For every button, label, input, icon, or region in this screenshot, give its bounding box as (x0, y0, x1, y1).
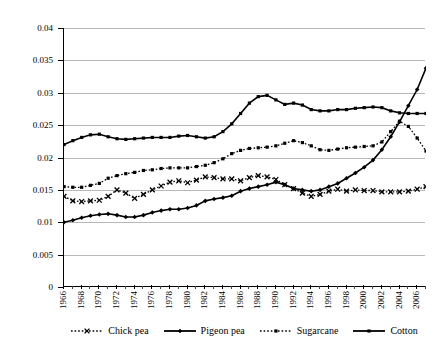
data-point (301, 141, 304, 144)
data-point (64, 185, 66, 188)
series-line (64, 121, 426, 187)
x-tick-label: 2004 (395, 291, 404, 309)
data-point (97, 212, 102, 217)
data-point (265, 94, 268, 97)
data-point (318, 109, 321, 112)
data-point (230, 122, 233, 125)
legend-marker-icon (70, 326, 104, 336)
data-point (398, 120, 401, 123)
data-point (354, 146, 357, 149)
data-point (327, 109, 330, 112)
legend-item-cotton[interactable]: Cotton (352, 326, 417, 336)
legend-item-pigeon-pea[interactable]: Pigeon pea (163, 326, 245, 336)
data-point (248, 147, 251, 150)
data-point (141, 213, 146, 218)
data-point (398, 111, 401, 114)
x-tick-mark (301, 286, 302, 289)
x-tick-mark (328, 285, 329, 289)
x-tick-mark (381, 285, 382, 289)
x-tick-mark (169, 285, 170, 289)
x-tick-label: 1968 (77, 291, 86, 309)
data-point (80, 136, 83, 139)
data-point (107, 135, 110, 138)
x-tick-label: 1996 (324, 291, 333, 309)
data-point (221, 157, 224, 160)
x-tick-label: 1998 (342, 291, 351, 309)
x-tick-mark (425, 286, 426, 289)
data-point (265, 146, 268, 149)
x-tick-mark (134, 285, 135, 289)
y-tick-label: 0.04 (37, 24, 53, 33)
legend-label: Cotton (390, 326, 417, 336)
legend-marker-icon (352, 326, 386, 336)
data-point (283, 103, 286, 106)
series-cotton (64, 94, 426, 146)
data-point (115, 187, 120, 192)
data-point (160, 167, 163, 170)
data-point (186, 166, 189, 169)
data-point (389, 109, 392, 112)
data-point (318, 188, 323, 193)
x-tick-label: 1976 (147, 291, 156, 309)
y-tick-label: 0.025 (33, 121, 53, 130)
x-tick-mark (178, 286, 179, 289)
legend-item-sugarcane[interactable]: Sugarcane (259, 326, 339, 336)
data-point (124, 172, 127, 175)
y-tick-label: 0 (49, 283, 54, 292)
data-point (301, 103, 304, 106)
data-point (151, 136, 154, 139)
data-point (150, 210, 155, 215)
data-point (168, 180, 173, 185)
data-point (424, 149, 426, 152)
data-point (195, 135, 198, 138)
data-point (309, 194, 314, 199)
data-point (230, 152, 233, 155)
x-tick-mark (248, 286, 249, 289)
data-point (185, 180, 190, 185)
data-point (98, 133, 101, 136)
data-point (159, 184, 164, 189)
legend-marker-icon (163, 326, 197, 336)
data-point (89, 184, 92, 187)
data-point (133, 171, 136, 174)
data-point (107, 177, 110, 180)
data-point (353, 187, 358, 192)
data-point (229, 176, 234, 181)
x-tick-mark (63, 285, 64, 289)
data-point (159, 208, 164, 213)
data-point (327, 184, 332, 189)
y-tick-label: 0.015 (33, 185, 53, 194)
data-point (212, 135, 215, 138)
data-point (71, 218, 76, 223)
x-tick-label: 1994 (306, 291, 315, 309)
data-point (71, 139, 74, 142)
data-point (406, 189, 411, 194)
data-point (71, 186, 74, 189)
data-point (274, 98, 277, 101)
data-point (142, 169, 145, 172)
y-tick-label: 0.03 (37, 88, 53, 97)
x-tick-mark (275, 285, 276, 289)
y-tick-label: 0.01 (37, 218, 53, 227)
x-tick-mark (346, 285, 347, 289)
x-tick-label: 1982 (200, 291, 209, 309)
x-tick-mark (142, 286, 143, 289)
data-point (371, 188, 376, 193)
data-point (363, 106, 366, 109)
x-tick-mark (213, 286, 214, 289)
data-point (257, 146, 260, 149)
data-point (371, 144, 374, 147)
data-point (239, 149, 242, 152)
data-point (388, 189, 393, 194)
data-point (292, 139, 295, 142)
data-point (221, 130, 224, 133)
data-point (132, 196, 137, 201)
legend-item-chick-pea[interactable]: Chick pea (70, 326, 148, 336)
data-point (88, 213, 93, 218)
data-point (336, 108, 339, 111)
x-tick-mark (231, 286, 232, 289)
data-point (424, 112, 426, 115)
series-layer (64, 28, 425, 286)
data-point (257, 95, 260, 98)
data-point (389, 130, 392, 133)
